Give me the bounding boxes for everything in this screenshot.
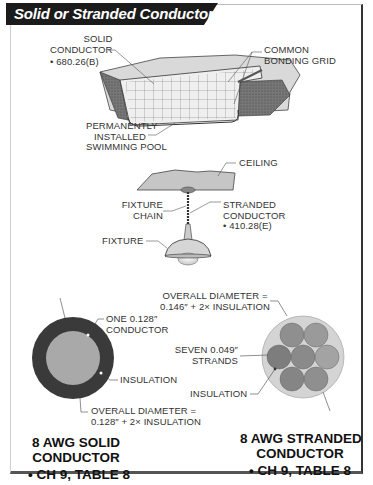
stranded-caption-line2: CONDUCTOR [240,446,360,461]
solid-conductor-line2: CONDUCTOR [50,45,112,56]
bonding-grid-line2: BONDING GRID [264,56,336,67]
solid-caption-line2: CONDUCTOR [26,450,126,465]
solid-conductor-size-label: ONE 0.128″ CONDUCTOR [106,314,168,335]
strands-line1: SEVEN 0.049″ [168,345,238,356]
bonding-grid-label: COMMON BONDING GRID [264,45,336,66]
pool-line3: SWIMMING POOL [86,142,146,153]
fixture-label: FIXTURE [102,236,143,247]
stranded-diameter-line1: OVERALL DIAMETER = [150,291,280,302]
pool-label: PERMANENTLY INSTALLED SWIMMING POOL [86,121,146,153]
stranded-conductor-line1: STRANDED [223,200,285,211]
solid-diameter-line2: 0.128″ + 2× INSULATION [91,417,201,428]
solid-diameter-label: OVERALL DIAMETER = 0.128″ + 2× INSULATIO… [91,406,201,427]
fixture-chain-line2: CHAIN [120,211,163,222]
solid-conductor-label: SOLID CONDUCTOR [50,34,112,55]
stranded-conductor-label: STRANDED CONDUCTOR • 410.28(E) [223,200,285,232]
stranded-diameter-label: OVERALL DIAMETER = 0.146″ + 2× INSULATIO… [150,291,280,312]
stranded-caption-line1: 8 AWG STRANDED [240,431,360,446]
solid-caption-line1: 8 AWG SOLID [26,435,126,450]
solid-conductor-size-line2: CONDUCTOR [106,325,168,336]
strands-line2: STRANDS [168,356,238,367]
stranded-conductor-ref: • 410.28(E) [223,221,285,232]
ceiling-label: CEILING [239,158,278,169]
bonding-grid-line1: COMMON [264,45,336,56]
fixture-chain-label: FIXTURE CHAIN [120,200,163,221]
stranded-insulation-label: INSULATION [190,389,247,400]
stranded-caption: 8 AWG STRANDED CONDUCTOR • CH 9, TABLE 8 [240,431,360,478]
stranded-caption-ref: • CH 9, TABLE 8 [240,463,360,478]
strands-label: SEVEN 0.049″ STRANDS [168,345,238,366]
fixture-chain-line1: FIXTURE [120,200,163,211]
solid-conductor-line1: SOLID [50,34,112,45]
solid-caption-ref: • CH 9, TABLE 8 [28,467,126,482]
solid-wire-cross-section [32,317,114,399]
solid-insulation-label: INSULATION [120,375,177,386]
solid-conductor-ref: • 680.26(B) [50,57,99,68]
solid-diameter-line1: OVERALL DIAMETER = [91,406,201,417]
solid-caption: 8 AWG SOLID CONDUCTOR • CH 9, TABLE 8 [26,435,126,482]
solid-conductor-size-line1: ONE 0.128″ [106,314,168,325]
pool-line1: PERMANENTLY [86,121,146,132]
stranded-diameter-line2: 0.146″ + 2× INSULATION [150,302,280,313]
stranded-wire-cross-section [262,316,344,398]
